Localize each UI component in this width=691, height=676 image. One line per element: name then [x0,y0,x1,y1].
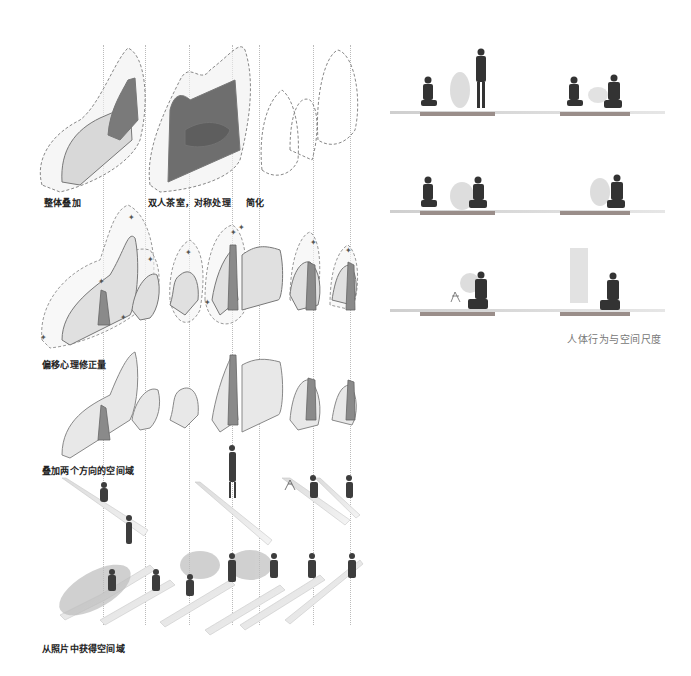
photo-row-2 [390,175,665,216]
photo-row-3 [390,248,665,316]
photo-row-1 [390,49,665,117]
diagram-canvas: 整体叠加 双人茶室，对称处理 简化 ✦✦✦ ✦ [0,0,691,676]
right-panel-caption: 人体行为与空间尺度 [567,331,662,346]
